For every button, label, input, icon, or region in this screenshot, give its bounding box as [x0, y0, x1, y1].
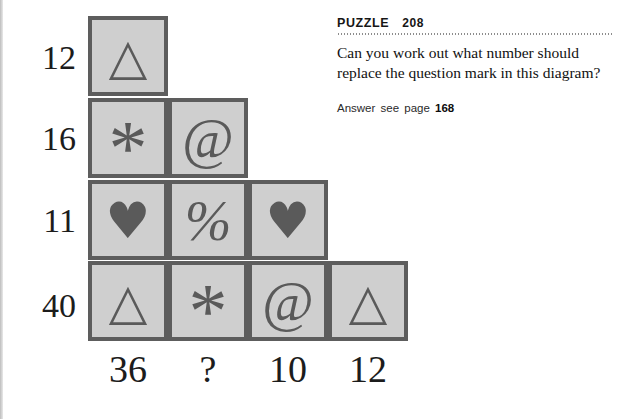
row-total-4: 40: [14, 289, 76, 323]
answer-reference: Answer see page 168: [337, 102, 613, 114]
grid-cell-r4c4[interactable]: △: [328, 261, 408, 341]
grid-cell-r1c1[interactable]: △: [88, 16, 168, 96]
grid-cell-r3c3[interactable]: ♥: [248, 180, 328, 260]
at-icon: @: [262, 274, 314, 330]
puzzle-number: 208: [402, 16, 424, 30]
answer-prefix: Answer see page: [337, 102, 430, 114]
percent-icon: %: [185, 193, 232, 249]
grid-cell-r2c2[interactable]: @: [168, 98, 248, 178]
heart-icon: ♥: [266, 196, 311, 246]
triangle-icon: △: [349, 277, 387, 327]
asterisk-icon: *: [109, 109, 148, 178]
grid-cell-r3c2[interactable]: %: [168, 180, 248, 260]
puzzle-label: PUZZLE: [337, 16, 389, 30]
column-total-2: ?: [168, 350, 248, 388]
asterisk-icon: *: [189, 272, 228, 341]
triangle-icon: △: [109, 277, 147, 327]
row-total-3: 11: [14, 204, 76, 238]
header-divider: [337, 33, 613, 35]
puzzle-question: Can you work out what number should repl…: [337, 43, 613, 83]
grid-cell-r4c1[interactable]: △: [88, 261, 168, 341]
grid-cell-r3c1[interactable]: ♥: [88, 180, 168, 260]
row-total-2: 16: [14, 122, 76, 156]
heart-icon: ♥: [106, 196, 151, 246]
grid-cell-r4c2[interactable]: *: [168, 261, 248, 341]
column-total-1: 36: [88, 350, 168, 388]
row-total-1: 12: [14, 41, 76, 75]
triangle-icon: △: [109, 32, 147, 82]
puzzle-text-panel: PUZZLE 208 Can you work out what number …: [337, 16, 613, 114]
grid-cell-r2c1[interactable]: *: [88, 98, 168, 178]
column-total-3: 10: [248, 350, 328, 388]
puzzle-header: PUZZLE 208: [337, 16, 613, 30]
column-total-4: 12: [328, 350, 408, 388]
at-icon: @: [182, 111, 234, 167]
grid-cell-r4c3[interactable]: @: [248, 261, 328, 341]
answer-page-number: 168: [435, 102, 454, 114]
